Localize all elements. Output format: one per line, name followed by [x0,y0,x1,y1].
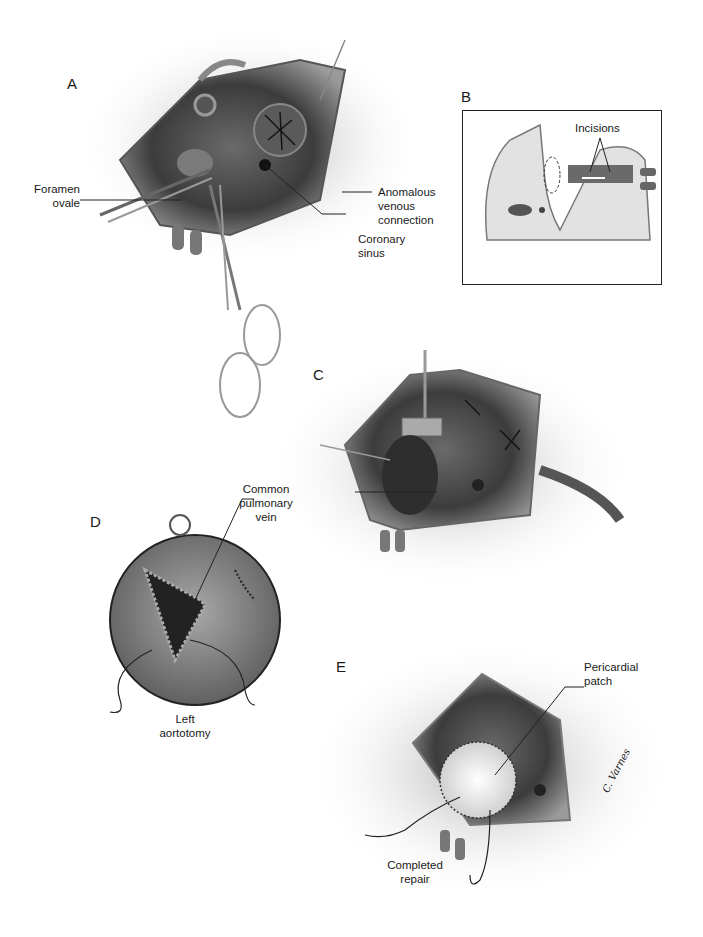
label-anomalous-venous-connection: Anomalous venous connection [378,185,436,227]
panel-letter-a: A [67,75,77,92]
label-line: patch [584,674,638,688]
label-line: Common [226,482,306,496]
label-line: aortotomy [145,726,225,740]
label-line: vein [226,510,306,524]
label-line: Pericardial [584,660,638,674]
label-line: Foramen [30,182,80,196]
label-left-aortotomy: Left aortotomy [145,712,225,740]
label-foramen-ovale: Foramen ovale [30,182,80,210]
label-completed-repair: Completed repair [375,858,455,886]
label-line: Anomalous [378,185,436,199]
label-line: Left [145,712,225,726]
panel-letter-e: E [336,658,346,675]
label-line: sinus [358,246,405,260]
label-line: Completed [375,858,455,872]
panel-letter-d: D [90,513,101,530]
label-line: connection [378,213,436,227]
label-coronary-sinus: Coronary sinus [358,232,405,260]
label-line: pulmonary [226,496,306,510]
label-line: repair [375,872,455,886]
label-line: ovale [30,196,80,210]
panel-letter-c: C [313,366,324,383]
label-common-pulmonary-vein: Common pulmonary vein [226,482,306,524]
label-pericardial-patch: Pericardial patch [584,660,638,688]
panel-letter-b: B [461,88,471,105]
label-line: Coronary [358,232,405,246]
panel-b-overlay [0,0,703,937]
label-incisions: Incisions [575,121,620,135]
label-line: venous [378,199,436,213]
